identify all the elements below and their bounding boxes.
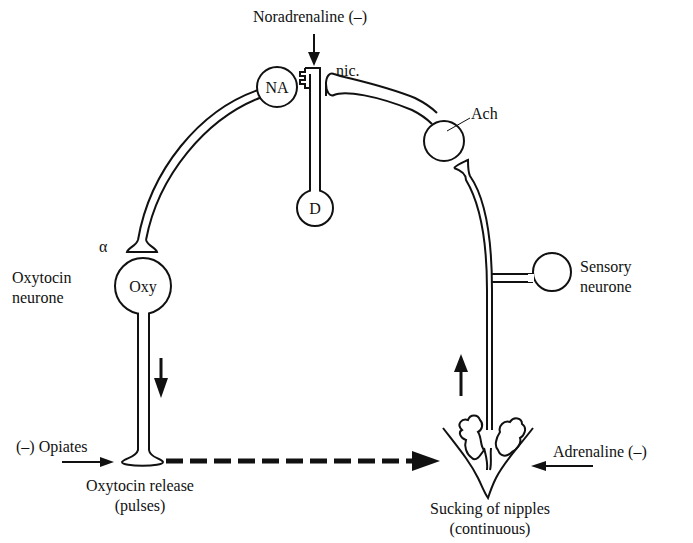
preganglionic-neurone <box>326 73 437 124</box>
oxytocin-neurone: Oxy <box>115 258 171 466</box>
adrenaline-arrow-icon <box>531 461 593 471</box>
opiates-arrow-icon <box>62 457 114 467</box>
oxytocin-flow-down-arrow-icon <box>154 358 168 398</box>
oxytocin-reflex-diagram: Noradrenaline (–) nic. D NA α Oxy Oxytoc… <box>0 0 693 543</box>
sensory-neurone-label-line2: neurone <box>580 278 632 295</box>
oxytocin-release-label-line2: (pulses) <box>115 497 166 515</box>
oxytocin-release-label-line1: Oxytocin release <box>86 477 194 495</box>
release-to-sucking-dashed-arrow-icon <box>166 451 440 471</box>
opiates-label: (–) Opiates <box>16 438 88 456</box>
d-cell-label: D <box>309 200 321 217</box>
sucking-label-line2: (continuous) <box>450 520 531 538</box>
oxytocin-neurone-label-line2: neurone <box>12 289 64 306</box>
noradrenaline-label: Noradrenaline (–) <box>253 8 367 26</box>
ach-label: Ach <box>471 105 498 122</box>
sensory-neurone <box>492 253 571 291</box>
ach-neurone: Ach <box>424 105 498 161</box>
na-neurone: NA <box>127 67 297 252</box>
oxy-cell-label: Oxy <box>129 278 157 296</box>
oxytocin-neurone-label-line1: Oxytocin <box>12 269 72 287</box>
na-cell-label: NA <box>265 79 289 96</box>
adrenaline-label: Adrenaline (–) <box>553 443 647 461</box>
sucking-label-line1: Sucking of nipples <box>430 500 550 518</box>
sensory-flow-up-arrow-icon <box>454 354 468 396</box>
alpha-receptor-label: α <box>99 238 108 255</box>
sensory-neurone-label-line1: Sensory <box>580 258 632 276</box>
noradrenaline-arrow-icon <box>308 34 320 66</box>
